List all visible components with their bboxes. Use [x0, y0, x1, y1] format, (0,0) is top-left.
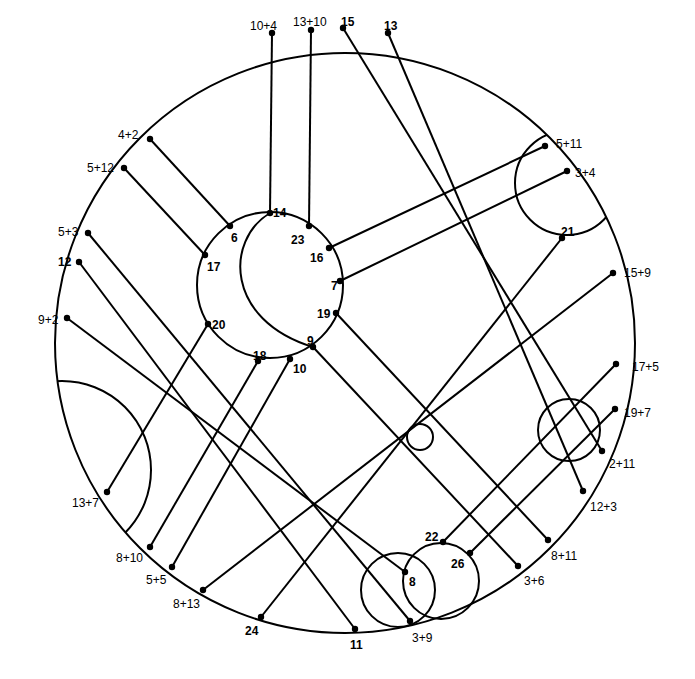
- dot-5+5[interactable]: [169, 564, 175, 570]
- line-13-to-12+3: [388, 33, 583, 491]
- label-20: 20: [212, 318, 226, 332]
- dot-8+13[interactable]: [200, 587, 206, 593]
- label-5+5: 5+5: [146, 573, 167, 587]
- label-19: 19: [317, 307, 331, 321]
- connector-lines: [67, 28, 616, 629]
- points: [64, 25, 619, 632]
- dot-19[interactable]: [333, 310, 339, 316]
- dot-22[interactable]: [440, 539, 446, 545]
- label-7: 7: [331, 279, 338, 293]
- label-21: 21: [561, 225, 575, 239]
- line-4+2-to-6: [150, 139, 230, 226]
- shapes: [55, 53, 635, 633]
- label-6: 6: [231, 231, 238, 245]
- label-13+7: 13+7: [72, 496, 99, 510]
- lower-right-circle: [538, 399, 600, 461]
- dot-9+2[interactable]: [64, 315, 70, 321]
- label-22: 22: [425, 530, 439, 544]
- dot-11[interactable]: [352, 626, 358, 632]
- diagram-canvas: 10+413+1015134+25+125+3129+213+78+105+58…: [0, 0, 695, 679]
- puzzle-diagram: 10+413+1015134+25+125+3129+213+78+105+58…: [0, 0, 695, 679]
- dot-8[interactable]: [402, 569, 408, 575]
- label-12: 12: [58, 255, 72, 269]
- label-13: 13: [384, 19, 398, 33]
- line-9-to-3+6: [313, 347, 518, 566]
- dot-7[interactable]: [337, 278, 343, 284]
- dot-5+11[interactable]: [542, 143, 548, 149]
- label-8+11: 8+11: [551, 549, 577, 563]
- label-8+13: 8+13: [173, 597, 200, 611]
- line-18-to-8+10: [150, 361, 258, 547]
- dot-13+7[interactable]: [104, 489, 110, 495]
- label-17+5: 17+5: [632, 360, 659, 374]
- dot-23[interactable]: [306, 223, 312, 229]
- label-26: 26: [451, 557, 465, 571]
- dot-17+5[interactable]: [613, 361, 619, 367]
- dot-3+6[interactable]: [515, 563, 521, 569]
- label-9+2: 9+2: [38, 313, 59, 327]
- dot-16[interactable]: [326, 245, 332, 251]
- label-8: 8: [409, 575, 416, 589]
- dot-5+3[interactable]: [85, 230, 91, 236]
- label-3+4: 3+4: [575, 166, 596, 180]
- dot-19+7[interactable]: [612, 406, 618, 412]
- label-11: 11: [350, 638, 363, 652]
- extra-circles: [361, 399, 600, 627]
- dot-12[interactable]: [76, 259, 82, 265]
- line-20-to-13+7: [107, 324, 208, 492]
- outer-circle: [55, 53, 635, 633]
- label-13+10: 13+10: [293, 15, 327, 29]
- dot-8+10[interactable]: [147, 544, 153, 550]
- dot-3+4[interactable]: [564, 168, 570, 174]
- label-4+2: 4+2: [118, 128, 139, 142]
- label-8+10: 8+10: [116, 551, 143, 565]
- line-13+10-to-23: [309, 30, 311, 226]
- small-center-circle: [407, 424, 433, 450]
- label-10+4: 10+4: [250, 19, 277, 33]
- label-18: 18: [253, 349, 267, 363]
- dot-4+2[interactable]: [147, 136, 153, 142]
- dot-12+3[interactable]: [580, 488, 586, 494]
- dot-5+12[interactable]: [121, 165, 127, 171]
- dot-15+9[interactable]: [610, 270, 616, 276]
- label-2+11: 2+11: [609, 457, 635, 471]
- label-15: 15: [341, 15, 355, 29]
- label-5+11: 5+11: [556, 137, 582, 151]
- line-9+2-to-8: [67, 318, 405, 572]
- dot-2+11[interactable]: [599, 448, 605, 454]
- label-15+9: 15+9: [624, 266, 651, 280]
- label-9: 9: [307, 334, 314, 348]
- dot-24[interactable]: [258, 614, 264, 620]
- dot-17[interactable]: [202, 252, 208, 258]
- line-10+4-to-14: [270, 33, 272, 213]
- label-5+3: 5+3: [58, 225, 79, 239]
- label-23: 23: [291, 233, 305, 247]
- label-3+6: 3+6: [524, 574, 545, 588]
- label-17: 17: [207, 260, 221, 274]
- label-24: 24: [245, 624, 259, 638]
- dot-20[interactable]: [205, 321, 211, 327]
- label-5+12: 5+12: [87, 161, 114, 175]
- label-14: 14: [273, 206, 287, 220]
- point-labels: 10+413+1015134+25+125+3129+213+78+105+58…: [38, 15, 659, 652]
- line-5+12-to-17: [124, 168, 205, 255]
- dot-26[interactable]: [467, 550, 473, 556]
- dot-6[interactable]: [227, 223, 233, 229]
- label-12+3: 12+3: [590, 500, 617, 514]
- dot-3+9[interactable]: [407, 618, 413, 624]
- label-16: 16: [310, 251, 324, 265]
- left-arc: [0, 381, 151, 559]
- label-10: 10: [293, 362, 307, 376]
- label-3+9: 3+9: [412, 631, 433, 645]
- inner-circle: [197, 212, 343, 358]
- label-19+7: 19+7: [624, 406, 651, 420]
- dot-8+11[interactable]: [545, 537, 551, 543]
